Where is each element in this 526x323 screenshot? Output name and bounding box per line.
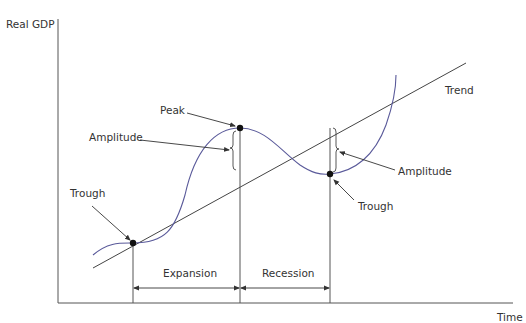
amplitude-left-label: Amplitude (89, 131, 143, 143)
recession-label: Recession (262, 267, 314, 279)
y-axis-label: Real GDP (6, 18, 55, 30)
trend-label: Trend (444, 84, 474, 96)
trough-left-label: Trough (69, 187, 105, 199)
peak-label: Peak (160, 104, 186, 116)
amplitude-left-arrow (140, 140, 229, 150)
expansion-label: Expansion (163, 267, 217, 279)
trough-left-arrow (92, 206, 130, 240)
trough-right-point (327, 171, 333, 177)
peak-point (237, 125, 243, 131)
amplitude-right-brace (333, 128, 339, 172)
x-axis-label: Time (496, 311, 523, 323)
trough-left-point (130, 240, 136, 246)
amplitude-left-brace (230, 131, 236, 170)
trough-right-arrow (334, 180, 354, 200)
amplitude-right-arrow (340, 152, 395, 170)
cycle-curve (93, 75, 396, 255)
trough-right-label: Trough (357, 200, 393, 212)
amplitude-right-label: Amplitude (398, 165, 452, 177)
business-cycle-diagram: Real GDP Time Trend Peak Amplitude Troug… (0, 0, 526, 323)
peak-arrow (187, 113, 235, 126)
